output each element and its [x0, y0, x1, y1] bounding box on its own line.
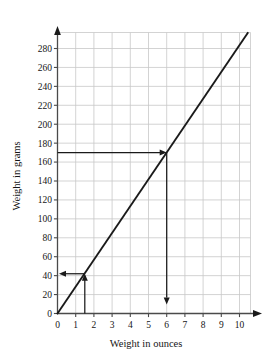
y-axis-tick-label: 280	[38, 44, 53, 54]
y-axis-tick-label: 260	[38, 63, 53, 73]
x-axis-tick-label: 8	[201, 320, 206, 330]
y-axis-tick-label: 60	[42, 252, 52, 262]
x-axis-title: Weight in ounces	[110, 338, 183, 349]
x-axis-tick-label: 0	[55, 320, 60, 330]
y-axis-tick-label: 140	[38, 176, 53, 186]
x-axis-tick-label: 6	[164, 320, 169, 330]
y-axis-tick-label: 240	[38, 82, 53, 92]
y-axis-tick-label: 100	[38, 214, 53, 224]
y-axis-tick-label: 220	[38, 101, 53, 111]
chart-container: 020406080100120140160180200220240260280 …	[0, 0, 273, 363]
x-axis-tick-label: 1	[73, 320, 78, 330]
x-axis-tick-label: 7	[183, 320, 188, 330]
y-axis-tick-label: 80	[42, 233, 52, 243]
y-axis-tick-label: 120	[38, 195, 53, 205]
x-axis-tick-label: 5	[146, 320, 151, 330]
y-axis-tick-label: 0	[47, 309, 52, 319]
y-axis-tick-label: 40	[42, 271, 52, 281]
x-axis-tick-label: 3	[110, 320, 115, 330]
x-axis-tick-label: 2	[92, 320, 97, 330]
y-axis-tick-label: 200	[38, 120, 53, 130]
weight-conversion-line-chart: 020406080100120140160180200220240260280 …	[0, 0, 273, 363]
y-axis-tick-label: 180	[38, 139, 53, 149]
y-axis-tick-label: 20	[42, 290, 52, 300]
y-axis-title: Weight in grams	[11, 141, 22, 210]
x-axis-tick-label: 10	[235, 320, 245, 330]
x-axis-tick-label: 4	[128, 320, 133, 330]
y-axis-tick-label: 160	[38, 157, 53, 167]
x-axis-tick-label: 9	[219, 320, 224, 330]
